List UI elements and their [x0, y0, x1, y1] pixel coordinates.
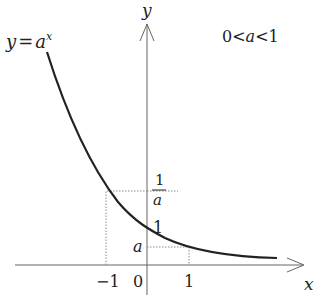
tick-x-one: 1 — [184, 272, 194, 291]
formula-label: y=ax — [5, 30, 53, 52]
tick-y-inv-a-num: 1 — [155, 171, 165, 189]
tick-x-neg-one: −1 — [96, 272, 120, 291]
x-axis-label: x — [304, 274, 314, 294]
condition-label: 0<a<1 — [222, 27, 279, 46]
exponential-graph: y=ax 0<a<1 y x −1 0 1 1 a 1 a — [0, 0, 314, 304]
guide-a — [147, 247, 189, 265]
tick-y-a: a — [133, 237, 143, 256]
tick-y-one: 1 — [153, 218, 163, 237]
origin-label: 0 — [133, 272, 143, 291]
y-axis-label: y — [141, 0, 152, 20]
tick-y-inv-a-den: a — [153, 191, 162, 209]
